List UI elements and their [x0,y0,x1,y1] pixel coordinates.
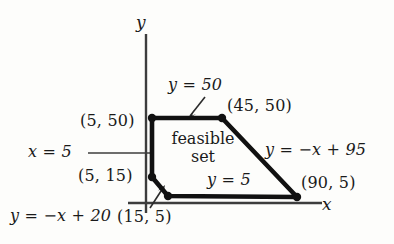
constraint-label-x-equals-5: x = 5 [28,144,72,160]
feasible-set-line-1: feasible [155,130,251,148]
vertex-dot-45-50 [218,114,226,122]
vertex-dot-15-5 [164,192,172,200]
vertex-label-15-5: (15, 5) [117,209,172,225]
constraint-label-y-equals-5: y = 5 [207,172,251,188]
constraint-label-y-equals-minus-x-plus-20: y = −x + 20 [10,208,111,224]
vertex-label-45-50: (45, 50) [227,98,292,114]
vertex-label-5-15: (5, 15) [78,168,133,184]
vertex-dot-90-5 [293,193,301,201]
constraint-label-y-equals-minus-x-plus-95: y = −x + 95 [265,142,366,158]
constraint-label-y-equals-50: y = 50 [168,77,222,93]
vertex-dot-5-50 [148,114,156,122]
vertex-label-5-50: (5, 50) [80,113,135,129]
feasible-set-annotation: feasible set [155,130,251,167]
vertex-dot-5-15 [148,173,156,181]
feasible-set-line-2: set [155,148,251,166]
x-axis-label: x [322,196,332,213]
y-axis-label: y [136,14,146,31]
vertex-label-90-5: (90, 5) [301,175,356,191]
